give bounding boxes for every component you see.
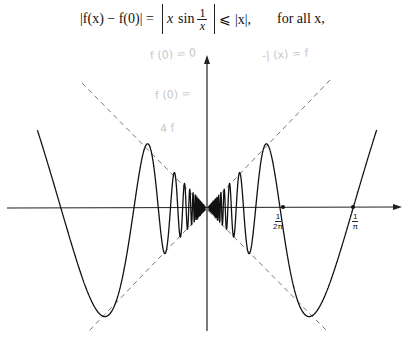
point-1-over-2pi <box>281 205 285 209</box>
tick-label-1-over-pi: 1 π <box>352 212 358 231</box>
function-plot <box>0 0 408 344</box>
tick-denominator: 2π <box>273 222 283 231</box>
point-1-over-pi <box>351 205 355 209</box>
tick-numerator: 1 <box>275 212 281 222</box>
y-axis-arrow-icon <box>204 55 210 64</box>
tick-numerator: 1 <box>352 212 358 222</box>
tick-denominator: π <box>352 222 358 231</box>
tick-label-1-over-2pi: 1 2π <box>273 212 283 231</box>
x-axis-arrow-icon <box>393 204 402 210</box>
